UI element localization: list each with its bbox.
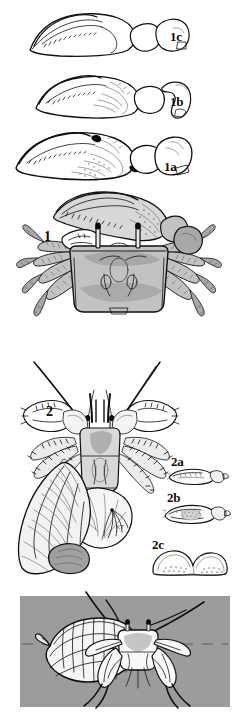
figure-label-1c: 1c — [170, 30, 182, 43]
figure-chela-1a — [10, 128, 195, 184]
figure-label-2b: 2b — [167, 491, 180, 504]
figure-crab-whole-1 — [14, 190, 224, 340]
hermit-crab-photo-panel — [20, 596, 230, 707]
figure-detail-2c — [150, 548, 230, 578]
figure-label-1: 1 — [44, 230, 51, 244]
figure-label-1b: 1b — [170, 95, 183, 108]
figure-label-2c: 2c — [152, 538, 164, 551]
figure-label-1a: 1a — [164, 160, 177, 173]
artist-signature: KT — [116, 524, 124, 530]
figure-label-2a: 2a — [171, 455, 184, 468]
figure-label-2: 2 — [46, 405, 53, 419]
illustration-plate: 1c 1b — [0, 0, 237, 714]
figure-chela-1c — [22, 6, 192, 58]
